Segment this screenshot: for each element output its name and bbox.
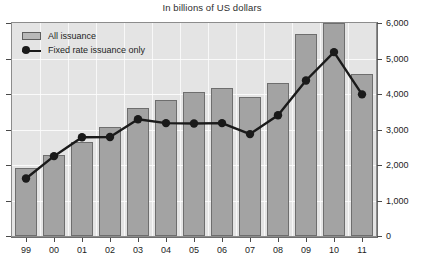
data-point-marker bbox=[78, 133, 86, 141]
data-point-marker bbox=[50, 152, 58, 160]
x-tick-mark bbox=[278, 238, 279, 242]
y-tick-mark bbox=[377, 236, 382, 237]
y-tick-mark bbox=[377, 130, 382, 131]
y-tick-mark-left bbox=[6, 236, 11, 237]
x-tick-label: 08 bbox=[273, 245, 283, 255]
bar-swatch-icon bbox=[22, 32, 41, 40]
data-point-marker bbox=[330, 48, 338, 56]
data-point-marker bbox=[358, 90, 366, 98]
x-tick-label: 09 bbox=[301, 245, 311, 255]
x-tick-label: 11 bbox=[357, 245, 366, 255]
data-point-marker bbox=[302, 76, 310, 84]
x-tick-mark bbox=[362, 238, 363, 242]
y-tick-label: 4,000 bbox=[386, 89, 409, 99]
legend-label-all-issuance: All issuance bbox=[48, 31, 96, 41]
x-tick-mark bbox=[138, 238, 139, 242]
legend-item-all-issuance: All issuance bbox=[22, 30, 145, 42]
y-tick-label: 3,000 bbox=[386, 125, 409, 135]
x-tick-label: 01 bbox=[77, 245, 87, 255]
line-path bbox=[26, 52, 362, 178]
x-tick-label: 02 bbox=[105, 245, 115, 255]
x-tick-mark bbox=[166, 238, 167, 242]
x-tick-mark bbox=[194, 238, 195, 242]
x-tick-mark bbox=[250, 238, 251, 242]
x-tick-mark bbox=[54, 238, 55, 242]
line-dot-swatch-icon bbox=[22, 46, 41, 55]
y-tick-label: 1,000 bbox=[386, 196, 409, 206]
y-tick-mark-left bbox=[6, 130, 11, 131]
legend-label-fixed-rate-issuance-only: Fixed rate issuance only bbox=[48, 45, 145, 55]
data-point-marker bbox=[190, 119, 198, 127]
legend-item-fixed-rate-issuance-only: Fixed rate issuance only bbox=[22, 44, 145, 56]
x-tick-label: 03 bbox=[133, 245, 143, 255]
y-tick-mark-left bbox=[6, 23, 11, 24]
y-tick-mark bbox=[377, 201, 382, 202]
chart-title: In billions of US dollars bbox=[0, 2, 424, 13]
data-point-marker bbox=[106, 133, 114, 141]
y-tick-label: 2,000 bbox=[386, 160, 409, 170]
data-point-marker bbox=[22, 174, 30, 182]
x-tick-mark bbox=[334, 238, 335, 242]
x-tick-label: 06 bbox=[217, 245, 227, 255]
x-tick-label: 05 bbox=[189, 245, 199, 255]
data-point-marker bbox=[134, 115, 142, 123]
x-tick-label: 10 bbox=[329, 245, 339, 255]
y-tick-label: 0 bbox=[386, 231, 391, 241]
y-tick-mark bbox=[377, 59, 382, 60]
data-point-marker bbox=[274, 111, 282, 119]
legend: All issuance Fixed rate issuance only bbox=[22, 30, 145, 58]
x-tick-label: 99 bbox=[21, 245, 31, 255]
x-tick-label: 04 bbox=[161, 245, 171, 255]
x-tick-mark bbox=[222, 238, 223, 242]
y-tick-mark-left bbox=[6, 165, 11, 166]
y-tick-mark-left bbox=[6, 201, 11, 202]
x-tick-label: 07 bbox=[245, 245, 255, 255]
y-tick-mark-left bbox=[6, 94, 11, 95]
x-tick-mark bbox=[306, 238, 307, 242]
data-point-marker bbox=[246, 130, 254, 138]
y-tick-label: 5,000 bbox=[386, 54, 409, 64]
data-point-marker bbox=[162, 119, 170, 127]
y-tick-mark bbox=[377, 23, 382, 24]
x-tick-mark bbox=[110, 238, 111, 242]
y-tick-mark bbox=[377, 94, 382, 95]
y-tick-mark bbox=[377, 165, 382, 166]
data-point-marker bbox=[218, 119, 226, 127]
x-tick-mark bbox=[82, 238, 83, 242]
y-tick-label: 6,000 bbox=[386, 18, 409, 28]
x-tick-mark bbox=[26, 238, 27, 242]
x-tick-label: 00 bbox=[49, 245, 59, 255]
chart-root: In billions of US dollars 01,0002,0003,0… bbox=[0, 0, 424, 272]
y-tick-mark-left bbox=[6, 59, 11, 60]
